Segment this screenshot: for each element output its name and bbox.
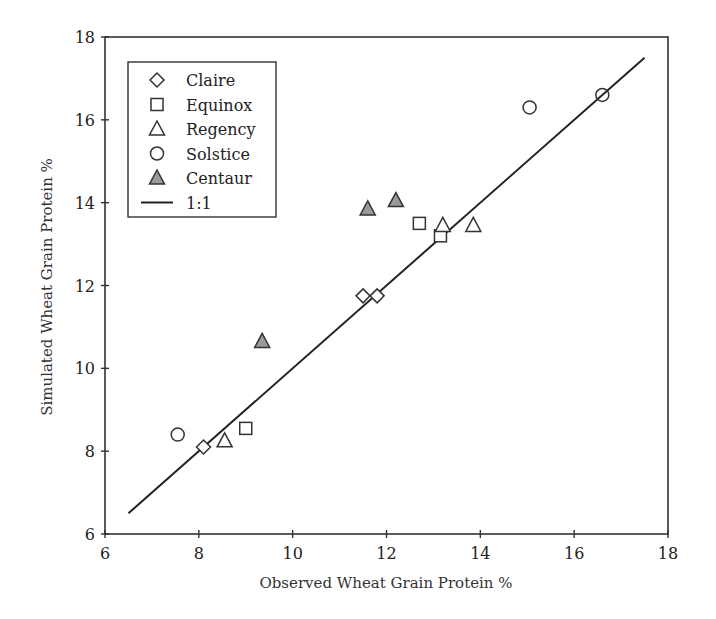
series-equinox [240,217,447,434]
legend-square-open-icon [151,99,163,111]
legend-label: Solstice [186,145,250,164]
scatter-chart: 681012141618 681012141618 ClaireEquinoxR… [0,0,716,619]
square-open-marker [413,217,425,229]
x-tick-label: 6 [100,544,110,563]
triangle-open-marker [435,217,450,231]
x-tick-label: 16 [564,544,584,563]
diamond-open-marker [370,289,384,303]
y-tick-label: 10 [75,359,95,378]
series-regency [217,217,481,446]
legend: ClaireEquinoxRegencySolsticeCentaur1:1 [128,62,276,217]
x-axis-label: Observed Wheat Grain Protein % [259,574,512,592]
y-tick-label: 8 [85,442,95,461]
x-tick-label: 10 [282,544,302,563]
series-centaur [255,193,404,348]
y-tick-label: 12 [75,277,95,296]
y-tick-label: 6 [85,525,95,544]
y-axis-label: Simulated Wheat Grain Protein % [38,158,56,416]
legend-label: Claire [186,71,235,90]
square-open-marker [240,422,252,434]
y-tick-label: 14 [75,194,95,213]
x-tick-label: 18 [658,544,678,563]
circle-open-marker [171,428,184,441]
circle-open-marker [523,101,536,114]
triangle-filled-marker [255,333,270,347]
x-axis-ticks: 681012141618 [100,530,678,563]
triangle-filled-marker [360,201,375,215]
triangle-filled-marker [388,193,403,207]
legend-label: Centaur [186,169,252,188]
y-axis-ticks: 681012141618 [75,28,109,544]
legend-label: Regency [186,120,256,139]
legend-label: 1:1 [186,194,212,213]
legend-label: Equinox [186,96,252,115]
x-tick-label: 12 [376,544,396,563]
triangle-open-marker [217,433,232,447]
triangle-open-marker [466,217,481,231]
y-tick-label: 18 [75,28,95,47]
x-tick-label: 8 [194,544,204,563]
x-tick-label: 14 [470,544,490,563]
y-tick-label: 16 [75,111,95,130]
